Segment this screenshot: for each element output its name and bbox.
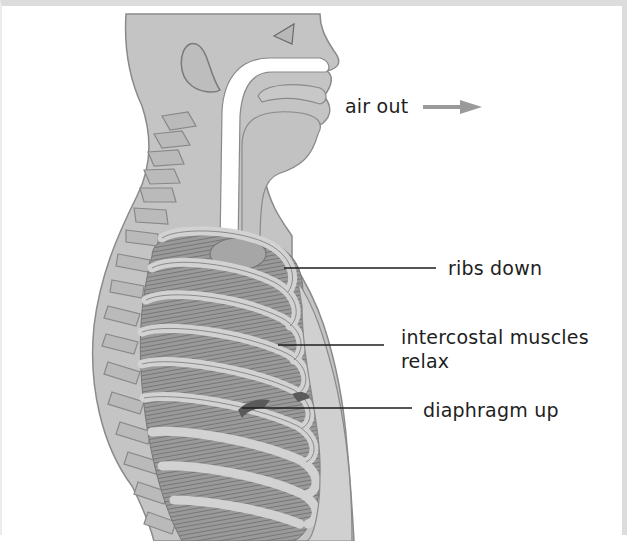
label-ribs-down: ribs down	[448, 257, 542, 279]
label-diaphragm-up: diaphragm up	[423, 399, 559, 421]
label-air-out: air out	[345, 95, 408, 117]
rib-cage	[140, 231, 352, 541]
label-intercostal-relax: relax	[401, 350, 449, 372]
label-intercostal-muscles: intercostal muscles	[401, 326, 589, 348]
right-arrow-icon	[423, 100, 482, 114]
